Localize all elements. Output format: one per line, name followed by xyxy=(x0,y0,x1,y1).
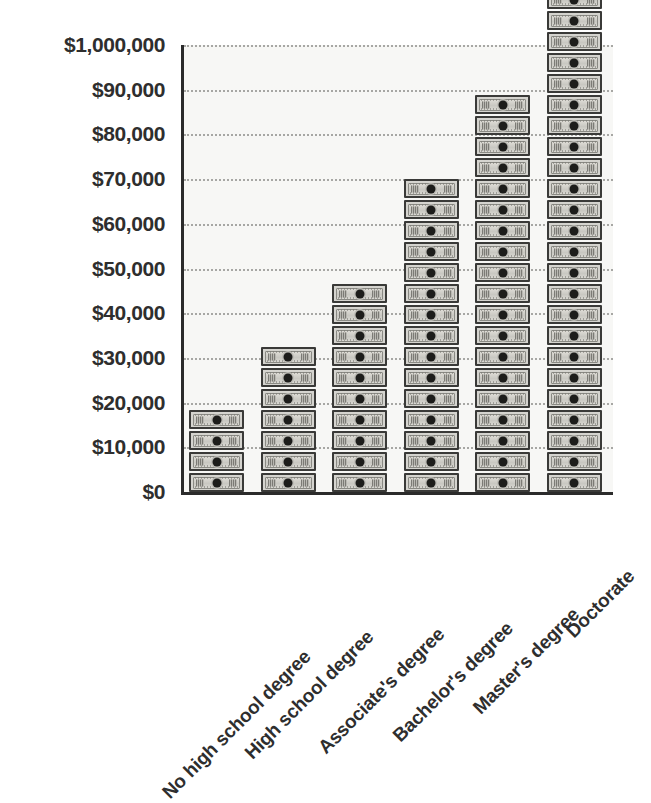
x-axis-tick-label: Doctorate xyxy=(562,565,639,642)
